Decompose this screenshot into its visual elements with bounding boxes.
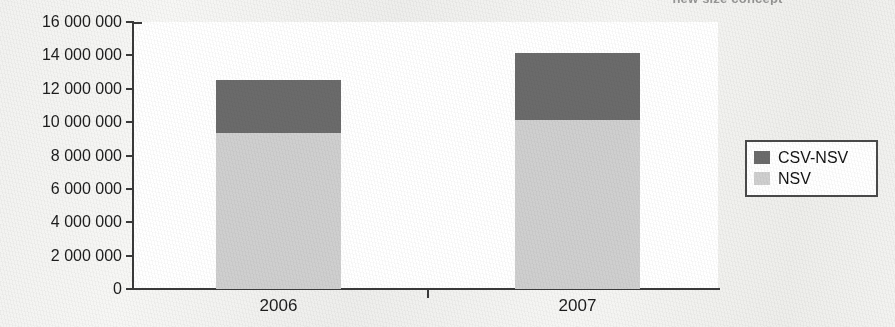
x-axis-tick-label-2006: 2006 <box>209 296 349 316</box>
bar-segment-csv-nsv-2007 <box>515 53 640 121</box>
y-axis-tick-label: 0 <box>0 280 122 298</box>
y-axis-tick <box>126 121 134 123</box>
y-axis-tick <box>126 155 134 157</box>
legend-label: CSV-NSV <box>778 150 848 166</box>
legend-swatch-icon <box>754 151 770 164</box>
legend-item-nsv[interactable]: NSV <box>754 168 869 189</box>
scanned-page: new size concept 02 000 0004 000 0006 00… <box>0 0 895 327</box>
chart-legend: CSV-NSVNSV <box>745 140 878 197</box>
x-axis-tick-label-2007: 2007 <box>508 296 648 316</box>
y-axis-tick-label: 12 000 000 <box>0 80 122 98</box>
y-axis-tick <box>126 288 134 290</box>
y-axis-tick-label: 6 000 000 <box>0 180 122 198</box>
x-axis-mid-tick <box>427 290 429 298</box>
y-axis-tick <box>126 54 134 56</box>
y-axis-tick-label: 8 000 000 <box>0 147 122 165</box>
bar-segment-nsv-2006 <box>216 133 341 289</box>
y-axis-tick-label: 2 000 000 <box>0 247 122 265</box>
y-axis-tick <box>126 221 134 223</box>
bar-segment-csv-nsv-2006 <box>216 80 341 133</box>
legend-item-csv-nsv[interactable]: CSV-NSV <box>754 147 869 168</box>
y-axis-tick <box>126 88 134 90</box>
bar-segment-nsv-2007 <box>515 120 640 289</box>
y-axis-tick-labels: 02 000 0004 000 0006 000 0008 000 00010 … <box>0 0 122 327</box>
legend-label: NSV <box>778 171 811 187</box>
y-axis-tick-label: 14 000 000 <box>0 46 122 64</box>
y-axis-tick-label: 16 000 000 <box>0 13 122 31</box>
y-axis-tick-label: 4 000 000 <box>0 213 122 231</box>
y-axis-tick <box>126 188 134 190</box>
legend-swatch-icon <box>754 172 770 185</box>
y-axis-tick <box>126 255 134 257</box>
y-axis-tick-label: 10 000 000 <box>0 113 122 131</box>
stacked-bar-chart: 02 000 0004 000 0006 000 0008 000 00010 … <box>0 0 895 327</box>
y-axis-tick <box>126 21 134 23</box>
